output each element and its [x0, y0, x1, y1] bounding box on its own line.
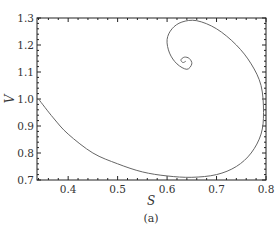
y-tick-label: 1.0 [17, 93, 34, 105]
x-tick-label: 0.4 [60, 183, 77, 195]
x-tick-label: 0.5 [109, 183, 126, 195]
x-tick-label: 0.6 [159, 183, 176, 195]
x-tick-label: 0.7 [208, 183, 225, 195]
x-tick-labels: 0.40.50.60.70.8 [60, 183, 275, 195]
trajectory-line [38, 20, 263, 177]
y-tick-label: 0.9 [17, 120, 34, 132]
figure-caption: (a) [143, 212, 158, 225]
phase-portrait-chart: 0.40.50.60.70.8 0.70.80.91.01.11.21.3 S … [0, 0, 280, 232]
plot-frame [37, 18, 266, 180]
x-axis-label: S [147, 194, 155, 208]
x-tick-label: 0.8 [258, 183, 275, 195]
y-axis-label: V [3, 93, 17, 103]
y-tick-label: 1.1 [17, 66, 34, 78]
y-tick-label: 0.8 [17, 147, 34, 159]
y-tick-label: 0.7 [17, 174, 34, 186]
y-tick-label: 1.3 [17, 12, 34, 24]
y-tick-label: 1.2 [17, 39, 34, 51]
axis-ticks [37, 18, 266, 180]
y-tick-labels: 0.70.80.91.01.11.21.3 [17, 12, 34, 186]
